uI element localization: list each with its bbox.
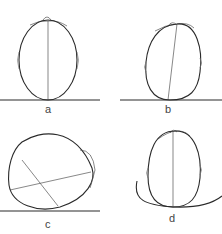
label-c: c	[45, 218, 51, 230]
panel-c: c	[0, 134, 100, 230]
panel-b: b	[120, 23, 222, 115]
label-d: d	[169, 212, 175, 224]
panel-a: a	[0, 17, 100, 115]
label-b: b	[165, 103, 171, 115]
head-positions-diagram: a b c d	[0, 0, 222, 234]
panel-d: d	[136, 130, 222, 224]
label-a: a	[45, 103, 52, 115]
